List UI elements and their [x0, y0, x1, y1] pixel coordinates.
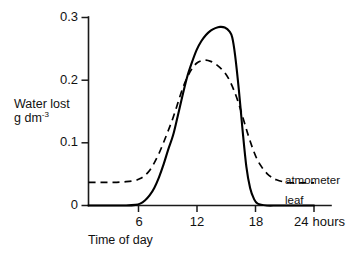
y-axis-title-line2: g dm-3 — [14, 111, 70, 125]
x-tick-label-24: 24hours — [294, 215, 345, 230]
series-line-atmometer — [89, 60, 315, 183]
y-axis-title: Water lost g dm-3 — [14, 97, 70, 125]
y-axis-title-line2-base: g dm — [14, 111, 42, 125]
x-axis-unit-label: hours — [312, 214, 345, 229]
x-tick-label-12: 12 — [183, 215, 211, 230]
series-line-leaf — [89, 27, 315, 206]
x-tick-label-18: 18 — [242, 215, 270, 230]
y-tick-label-0: 0 — [52, 198, 78, 213]
x-tick-label-24-value: 24 — [294, 214, 308, 229]
y-tick-label-0.3: 0.3 — [52, 10, 78, 25]
x-axis-title: Time of day — [88, 233, 153, 247]
x-tick-label-6: 6 — [125, 215, 153, 230]
series-label-leaf: leaf — [285, 194, 304, 207]
y-axis-title-exponent: -3 — [42, 110, 49, 119]
y-tick-label-0.1: 0.1 — [52, 135, 78, 150]
y-tick-label-0.2: 0.2 — [52, 73, 78, 88]
series-label-atmometer: atmometer — [285, 174, 340, 187]
